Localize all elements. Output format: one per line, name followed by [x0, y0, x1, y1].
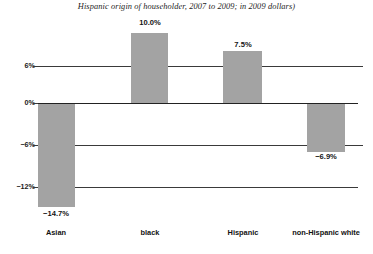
- gridline-neg12: [38, 187, 358, 188]
- gridline-6: [38, 66, 358, 67]
- data-label-hispanic: 7.5%: [213, 40, 273, 49]
- y-axis-tick-label-neg6: −6%: [5, 141, 35, 149]
- y-axis-tick-label-6: 6%: [5, 62, 35, 70]
- data-label-asian: −14.7%: [26, 209, 86, 218]
- bar-chart-figure: Hispanic origin of householder, 2007 to …: [0, 0, 373, 254]
- y-axis-tick-label-neg12: −12%: [5, 183, 35, 191]
- x-axis-label-non-hispanic-white: non-Hispanic white: [286, 228, 366, 237]
- y-axis-tick-mark-right-6: [358, 66, 363, 67]
- bar-hispanic[interactable]: [223, 51, 262, 103]
- x-axis-label-hispanic: Hispanic: [213, 228, 273, 237]
- data-label-black: 10.0%: [120, 18, 180, 27]
- data-label-non-hispanic-white: −6.9%: [296, 152, 356, 161]
- x-axis-label-black: black: [120, 228, 180, 237]
- y-axis-tick-mark-right-neg6: [358, 145, 363, 146]
- bar-non-hispanic-white[interactable]: [307, 104, 345, 152]
- x-axis-label-asian: Asian: [26, 228, 86, 237]
- bar-black[interactable]: [131, 33, 168, 103]
- y-axis-tick-label-0: 0%: [5, 99, 35, 107]
- bar-asian[interactable]: [38, 104, 75, 207]
- chart-title: Hispanic origin of householder, 2007 to …: [0, 1, 373, 12]
